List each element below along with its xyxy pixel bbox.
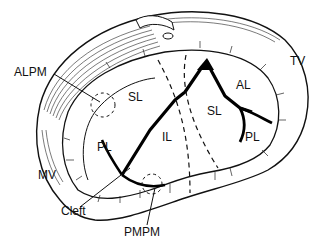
label-cleft: Cleft bbox=[61, 205, 86, 217]
label-pmpm: PMPM bbox=[124, 226, 160, 238]
label-pl-left: PL bbox=[97, 141, 112, 153]
label-pl-right: PL bbox=[245, 131, 260, 143]
inner-ring bbox=[63, 50, 279, 198]
label-alpm: ALPM bbox=[14, 66, 47, 78]
muscle-hatching bbox=[42, 18, 280, 185]
label-tv: TV bbox=[290, 55, 305, 67]
valve-drawing bbox=[0, 0, 336, 243]
label-il: IL bbox=[162, 131, 172, 143]
label-mv: MV bbox=[38, 169, 56, 181]
label-sl-left: SL bbox=[128, 91, 143, 103]
label-al: AL bbox=[236, 79, 251, 91]
coaptation-line bbox=[122, 62, 252, 175]
valve-diagram: ALPM TV SL AL SL IL PL PL MV Cleft PMPM bbox=[0, 0, 336, 243]
label-sl-right: SL bbox=[207, 105, 222, 117]
